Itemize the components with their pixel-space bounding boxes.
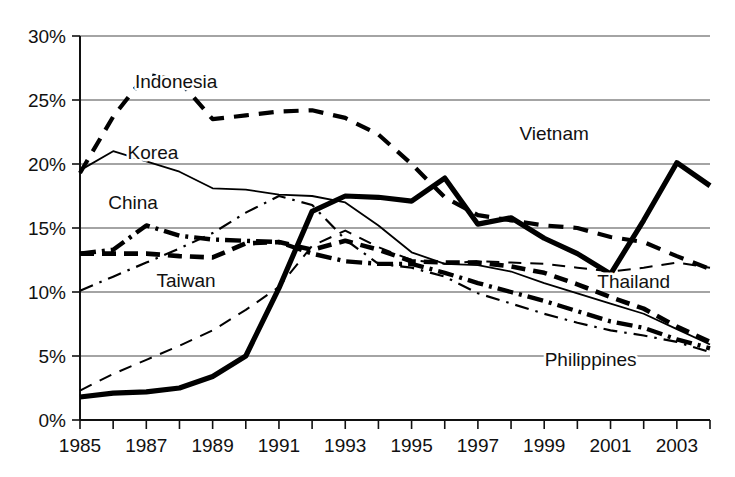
y-tick-label-20pct: 20% — [28, 154, 66, 175]
x-tick-label-1997: 1997 — [457, 435, 499, 456]
chart-container: 0%5%10%15%20%25%30% 19851987198919911993… — [0, 0, 735, 477]
x-tick-label-1987: 1987 — [125, 435, 167, 456]
x-tick-label-1985: 1985 — [59, 435, 101, 456]
y-tick-label-0pct: 0% — [39, 410, 67, 431]
series-line-korea — [80, 151, 710, 344]
x-tick-label-1993: 1993 — [324, 435, 366, 456]
y-tick-label-15pct: 15% — [28, 218, 66, 239]
series-label-indonesia: Indonesia — [135, 71, 218, 92]
series-label-philippines: Philippines — [545, 349, 637, 370]
x-tick-label-2001: 2001 — [589, 435, 631, 456]
y-tick-label-10pct: 10% — [28, 282, 66, 303]
y-tick-label-25pct: 25% — [28, 90, 66, 111]
series-label-china: China — [108, 192, 158, 213]
x-tick-label-1991: 1991 — [258, 435, 300, 456]
series-label-taiwan: Taiwan — [157, 270, 216, 291]
x-tick-label-1995: 1995 — [390, 435, 432, 456]
series-label-korea: Korea — [128, 142, 179, 163]
x-tick-label-1989: 1989 — [191, 435, 233, 456]
y-axis-tick-labels: 0%5%10%15%20%25%30% — [28, 26, 66, 431]
x-tick-label-2003: 2003 — [656, 435, 698, 456]
series-label-vietnam: Vietnam — [519, 123, 588, 144]
y-tick-label-30pct: 30% — [28, 26, 66, 47]
x-tick-label-1999: 1999 — [523, 435, 565, 456]
series-label-thailand: Thailand — [597, 271, 670, 292]
line-chart: 0%5%10%15%20%25%30% 19851987198919911993… — [0, 0, 735, 477]
x-axis-tick-labels: 1985198719891991199319951997199920012003 — [59, 435, 698, 456]
y-tick-label-5pct: 5% — [39, 346, 67, 367]
